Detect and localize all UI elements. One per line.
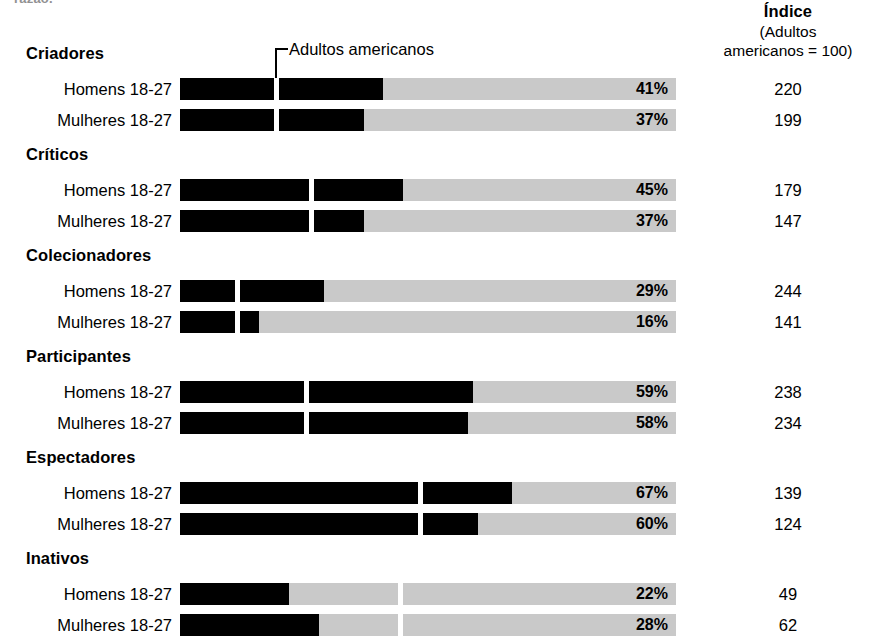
bar-track: 37% bbox=[180, 210, 676, 232]
row-label: Homens 18-27 bbox=[0, 177, 172, 203]
chart-row: Mulheres 18-2716%141 bbox=[0, 309, 876, 335]
bar-fill bbox=[180, 412, 468, 434]
bar-value-label: 60% bbox=[636, 513, 668, 535]
bar-track: 16% bbox=[180, 311, 676, 333]
bar-track: 67% bbox=[180, 482, 676, 504]
group-heading: Críticos bbox=[26, 145, 88, 164]
row-label: Mulheres 18-27 bbox=[0, 511, 172, 537]
bar-value-label: 59% bbox=[636, 381, 668, 403]
chart-row: Homens 18-2745%179 bbox=[0, 177, 876, 203]
bar-fill bbox=[180, 78, 383, 100]
row-label: Homens 18-27 bbox=[0, 480, 172, 506]
bar-track: 58% bbox=[180, 412, 676, 434]
index-value: 124 bbox=[700, 513, 876, 535]
benchmark-marker bbox=[309, 179, 314, 201]
index-value: 234 bbox=[700, 412, 876, 434]
index-value: 147 bbox=[700, 210, 876, 232]
group-heading: Inativos bbox=[26, 549, 89, 568]
chart-row: Mulheres 18-2760%124 bbox=[0, 511, 876, 537]
index-value: 244 bbox=[700, 280, 876, 302]
bar-track: 29% bbox=[180, 280, 676, 302]
chart-row: Mulheres 18-2758%234 bbox=[0, 410, 876, 436]
bar-fill bbox=[180, 109, 364, 131]
bar-fill bbox=[180, 482, 512, 504]
benchmark-marker bbox=[418, 482, 423, 504]
group-heading: Colecionadores bbox=[26, 246, 151, 265]
bar-fill bbox=[180, 583, 289, 605]
group-heading: Criadores bbox=[26, 44, 104, 63]
index-value: 62 bbox=[700, 614, 876, 636]
index-value: 179 bbox=[700, 179, 876, 201]
bar-track: 28% bbox=[180, 614, 676, 636]
benchmark-marker bbox=[235, 311, 240, 333]
group-heading: Espectadores bbox=[26, 448, 135, 467]
bar-track: 45% bbox=[180, 179, 676, 201]
benchmark-marker bbox=[304, 381, 309, 403]
row-label: Homens 18-27 bbox=[0, 379, 172, 405]
row-label: Mulheres 18-27 bbox=[0, 107, 172, 133]
bar-value-label: 37% bbox=[636, 210, 668, 232]
index-value: 199 bbox=[700, 109, 876, 131]
bar-value-label: 16% bbox=[636, 311, 668, 333]
index-value: 139 bbox=[700, 482, 876, 504]
benchmark-marker bbox=[274, 78, 279, 100]
row-label: Mulheres 18-27 bbox=[0, 410, 172, 436]
bar-value-label: 41% bbox=[636, 78, 668, 100]
row-label: Mulheres 18-27 bbox=[0, 208, 172, 234]
benchmark-marker bbox=[398, 583, 403, 605]
index-value: 220 bbox=[700, 78, 876, 100]
bar-value-label: 67% bbox=[636, 482, 668, 504]
index-value: 49 bbox=[700, 583, 876, 605]
row-label: Mulheres 18-27 bbox=[0, 309, 172, 335]
bar-value-label: 29% bbox=[636, 280, 668, 302]
bar-fill bbox=[180, 381, 473, 403]
benchmark-marker bbox=[418, 513, 423, 535]
bar-value-label: 28% bbox=[636, 614, 668, 636]
bar-fill bbox=[180, 280, 324, 302]
index-value: 238 bbox=[700, 381, 876, 403]
bar-track: 59% bbox=[180, 381, 676, 403]
row-label: Homens 18-27 bbox=[0, 278, 172, 304]
chart-row: Homens 18-2722%49 bbox=[0, 581, 876, 607]
bar-value-label: 45% bbox=[636, 179, 668, 201]
chart-row: Mulheres 18-2737%199 bbox=[0, 107, 876, 133]
row-label: Homens 18-27 bbox=[0, 581, 172, 607]
row-label: Homens 18-27 bbox=[0, 76, 172, 102]
chart-row: Homens 18-2767%139 bbox=[0, 480, 876, 506]
chart-row: Homens 18-2759%238 bbox=[0, 379, 876, 405]
chart-row: Homens 18-2729%244 bbox=[0, 278, 876, 304]
index-value: 141 bbox=[700, 311, 876, 333]
bar-value-label: 22% bbox=[636, 583, 668, 605]
chart-row: Homens 18-2741%220 bbox=[0, 76, 876, 102]
bar-value-label: 37% bbox=[636, 109, 668, 131]
bar-track: 41% bbox=[180, 78, 676, 100]
bar-track: 37% bbox=[180, 109, 676, 131]
row-label: Mulheres 18-27 bbox=[0, 612, 172, 638]
benchmark-marker bbox=[235, 280, 240, 302]
bar-fill bbox=[180, 210, 364, 232]
bar-track: 60% bbox=[180, 513, 676, 535]
chart-row: Mulheres 18-2728%62 bbox=[0, 612, 876, 638]
benchmark-marker bbox=[309, 210, 314, 232]
group-heading: Participantes bbox=[26, 347, 131, 366]
benchmark-marker bbox=[274, 109, 279, 131]
bar-value-label: 58% bbox=[636, 412, 668, 434]
bar-fill bbox=[180, 614, 319, 636]
bar-fill bbox=[180, 513, 478, 535]
bar-track: 22% bbox=[180, 583, 676, 605]
bar-fill bbox=[180, 179, 403, 201]
benchmark-marker bbox=[304, 412, 309, 434]
bar-fill bbox=[180, 311, 259, 333]
chart-row: Mulheres 18-2737%147 bbox=[0, 208, 876, 234]
benchmark-marker bbox=[398, 614, 403, 636]
